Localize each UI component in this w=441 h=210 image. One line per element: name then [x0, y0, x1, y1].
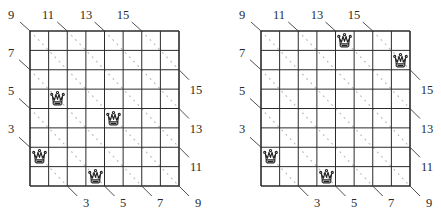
board-left: 9 11 13 15 7 5 3 15 13 11 9 3 5 7: [0, 0, 220, 210]
label-leader-line: [132, 22, 142, 31]
left-diagonal-label: 3: [8, 123, 14, 136]
bottom-diagonal-label: 3: [314, 197, 320, 210]
top-diagonal-label: 9: [239, 9, 245, 22]
label-leader-line: [363, 22, 373, 31]
label-leader-line: [410, 147, 420, 157]
label-leader-line: [105, 186, 115, 196]
left-diagonal-label: 3: [239, 123, 245, 136]
label-leader-line: [336, 186, 346, 196]
queen-icon: [392, 52, 409, 69]
top-diagonal-label: 9: [8, 9, 14, 22]
right-diagonal-label: 13: [190, 123, 203, 136]
right-diagonal-label: 15: [190, 84, 203, 97]
label-leader-line: [410, 186, 420, 196]
right-diagonal-label: 11: [190, 161, 202, 174]
label-leader-line: [250, 137, 261, 147]
right-diagonal-label: 13: [421, 123, 434, 136]
top-diagonal-label: 11: [42, 9, 54, 22]
label-leader-line: [57, 22, 67, 31]
label-leader-line: [250, 60, 261, 70]
label-leader-line: [19, 99, 30, 109]
label-leader-line: [251, 22, 261, 31]
bottom-diagonal-label: 5: [120, 197, 126, 210]
left-diagonal-label: 5: [239, 85, 245, 98]
queen-icon: [31, 148, 48, 165]
label-leader-line: [298, 186, 308, 196]
label-leader-line: [250, 99, 261, 109]
left-diagonal-label: 7: [239, 47, 245, 60]
queen-icon: [105, 110, 122, 127]
label-leader-line: [288, 22, 298, 31]
queen-icon: [262, 148, 279, 165]
right-diagonal-label: 11: [421, 161, 433, 174]
bottom-diagonal-label: 3: [83, 197, 89, 210]
label-leader-line: [179, 186, 189, 196]
label-leader-line: [67, 186, 77, 196]
label-leader-line: [179, 70, 189, 80]
label-leader-line: [95, 22, 105, 31]
left-diagonal-label: 5: [8, 85, 14, 98]
bottom-diagonal-label: 5: [351, 197, 357, 210]
bottom-diagonal-label: 7: [157, 197, 163, 210]
bottom-diagonal-label: 7: [388, 197, 394, 210]
label-leader-line: [142, 186, 152, 196]
board-right: 9 11 13 15 7 5 3 15 13 11 9 3 5 7: [231, 0, 441, 210]
label-leader-line: [410, 109, 420, 119]
label-leader-line: [20, 22, 30, 31]
label-leader-line: [19, 137, 30, 147]
label-leader-line: [179, 109, 189, 119]
queen-icon: [49, 90, 66, 107]
label-leader-line: [410, 70, 420, 80]
queen-icon: [336, 32, 353, 49]
top-diagonal-label: 15: [117, 9, 130, 22]
top-diagonal-label: 13: [80, 9, 93, 22]
top-diagonal-label: 11: [273, 9, 285, 22]
top-diagonal-label: 15: [348, 9, 361, 22]
right-diagonal-label: 15: [421, 84, 434, 97]
label-leader-line: [19, 60, 30, 70]
right-diagonal-label: 9: [426, 197, 432, 210]
label-leader-line: [179, 147, 189, 157]
label-leader-line: [326, 22, 336, 31]
queen-icon: [318, 168, 335, 185]
right-diagonal-label: 9: [195, 197, 201, 210]
left-diagonal-label: 7: [8, 47, 14, 60]
label-leader-line: [373, 186, 383, 196]
board-left-grid: [0, 0, 220, 210]
queen-icon: [87, 168, 104, 185]
top-diagonal-label: 13: [311, 9, 324, 22]
